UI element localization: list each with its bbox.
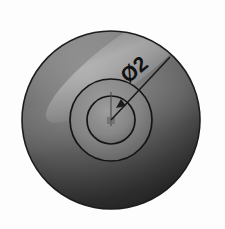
technical-drawing: Ø2 bbox=[0, 0, 225, 229]
drawing-canvas: Ø2 bbox=[0, 0, 225, 229]
